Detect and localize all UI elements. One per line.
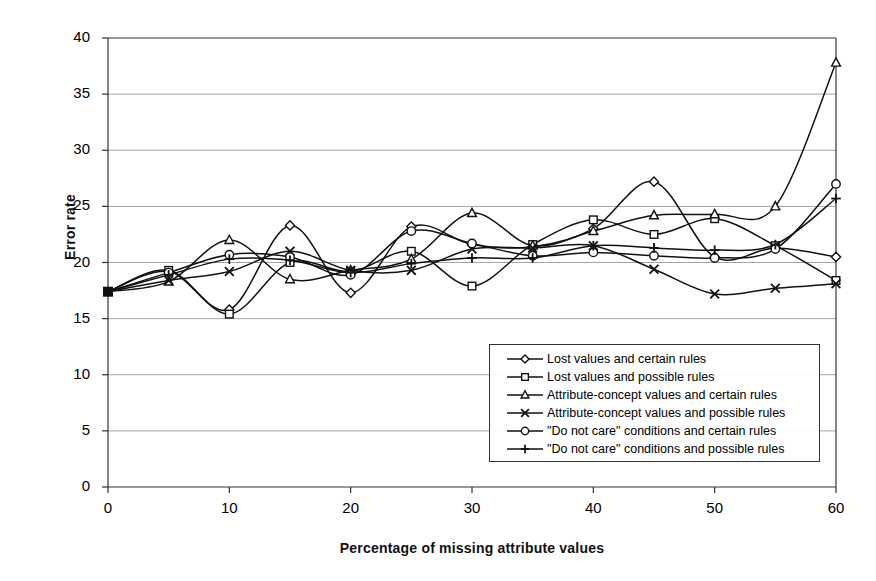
y-tick-label-40: 40: [50, 28, 90, 45]
legend-item-label: "Do not care" conditions and possible ru…: [547, 442, 784, 456]
series-marker-circle: [710, 254, 718, 262]
x-tick-label-30: 30: [452, 499, 492, 516]
legend-marker-plus-icon: [503, 441, 547, 457]
series-marker-plus: [710, 245, 720, 255]
plot-area: [0, 0, 876, 581]
legend-item-4: "Do not care" conditions and certain rul…: [490, 422, 819, 440]
x-tick-label-60: 60: [816, 499, 856, 516]
series-marker-triangle: [832, 58, 841, 66]
series-marker-plus: [649, 243, 659, 253]
y-tick-label-25: 25: [50, 196, 90, 213]
series-line: [108, 184, 836, 292]
series-marker-square: [590, 216, 598, 224]
series-marker-diamond: [346, 288, 355, 297]
series-marker-square: [650, 231, 658, 239]
y-tick-label-20: 20: [50, 253, 90, 270]
legend-item-1: Lost values and possible rules: [490, 368, 819, 386]
series-marker-plus: [467, 253, 477, 263]
series-marker-diamond: [831, 252, 840, 261]
legend-marker-glyph: [522, 374, 529, 381]
y-tick-label-0: 0: [50, 477, 90, 494]
series-marker-circle: [832, 180, 840, 188]
series-marker-square: [226, 310, 234, 318]
legend-item-label: Attribute-concept values and certain rul…: [547, 388, 777, 402]
legend-marker-square-icon: [503, 369, 547, 385]
legend-item-label: Attribute-concept values and possible ru…: [547, 406, 785, 420]
legend-item-2: Attribute-concept values and certain rul…: [490, 386, 819, 404]
legend-marker-glyph: [521, 355, 529, 363]
series-4: [108, 180, 840, 292]
series-marker-circle: [468, 239, 476, 247]
legend-marker-diamond-icon: [503, 351, 547, 367]
chart-container: Error rate Percentage of missing attribu…: [0, 0, 876, 581]
y-tick-label-15: 15: [50, 309, 90, 326]
legend-marker-x-icon: [503, 405, 547, 421]
series-marker-diamond: [285, 221, 294, 230]
series-origin-marker: [103, 287, 113, 297]
series-marker-x: [650, 265, 659, 274]
chart-legend: Lost values and certain rulesLost values…: [489, 344, 820, 462]
y-tick-label-35: 35: [50, 84, 90, 101]
legend-marker-glyph: [521, 391, 529, 398]
x-tick-label-0: 0: [88, 499, 128, 516]
legend-marker-glyph: [521, 427, 528, 434]
series-marker-diamond: [649, 177, 658, 186]
series-marker-circle: [650, 252, 658, 260]
x-tick-label-20: 20: [331, 499, 371, 516]
x-axis-title: Percentage of missing attribute values: [108, 540, 836, 556]
y-tick-label-5: 5: [50, 421, 90, 438]
x-tick-label-10: 10: [209, 499, 249, 516]
legend-item-5: "Do not care" conditions and possible ru…: [490, 440, 819, 458]
series-1: [108, 215, 840, 318]
x-tick-label-40: 40: [573, 499, 613, 516]
x-tick-label-50: 50: [695, 499, 735, 516]
y-tick-label-10: 10: [50, 365, 90, 382]
legend-marker-circle-icon: [503, 423, 547, 439]
series-line: [108, 219, 836, 315]
legend-marker-glyph: [521, 445, 529, 453]
legend-item-label: "Do not care" conditions and certain rul…: [547, 424, 776, 438]
legend-item-label: Lost values and certain rules: [547, 352, 706, 366]
y-tick-label-30: 30: [50, 140, 90, 157]
series-marker-circle: [407, 227, 415, 235]
series-marker-triangle: [225, 235, 234, 243]
legend-marker-triangle-icon: [503, 387, 547, 403]
legend-item-0: Lost values and certain rules: [490, 350, 819, 368]
series-marker-square: [468, 282, 476, 290]
legend-item-3: Attribute-concept values and possible ru…: [490, 404, 819, 422]
legend-item-label: Lost values and possible rules: [547, 370, 714, 384]
